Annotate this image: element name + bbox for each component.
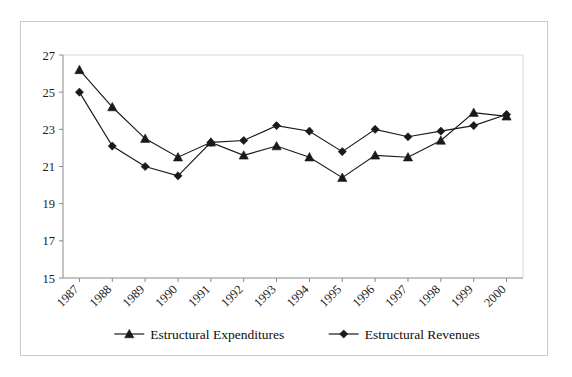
data-point-marker: [272, 141, 281, 149]
data-point-marker: [371, 125, 379, 133]
x-tick-label: 1987: [54, 282, 82, 310]
legend-item-1: Estructural Expenditures: [114, 327, 284, 342]
y-axis-ticks: 15171921232527: [43, 49, 64, 286]
data-point-marker: [108, 142, 116, 150]
x-tick-label: 1994: [284, 282, 312, 310]
y-tick-label: 23: [43, 123, 56, 137]
data-point-marker: [141, 162, 149, 170]
data-point-marker: [305, 153, 314, 161]
y-tick-label: 15: [43, 272, 56, 286]
data-point-marker: [404, 133, 412, 141]
series-line: [79, 70, 506, 178]
legend-item-2: Estructural Revenues: [329, 327, 480, 342]
data-point-marker: [305, 127, 313, 135]
plot-frame: [63, 55, 523, 278]
data-point-marker: [75, 88, 83, 96]
axes: [63, 55, 523, 278]
x-tick-label: 1996: [350, 282, 378, 310]
y-tick-label: 21: [43, 160, 56, 174]
data-point-marker: [470, 122, 478, 130]
x-tick-label: 1991: [185, 282, 213, 310]
y-tick-label: 27: [43, 49, 56, 63]
x-tick-label: 1995: [317, 282, 345, 310]
x-tick-label: 1998: [415, 282, 443, 310]
data-point-marker: [173, 153, 182, 161]
x-tick-label: 1989: [120, 282, 148, 310]
x-axis-ticks: 1987198819891990199119921993199419951996…: [54, 278, 509, 310]
data-point-marker: [272, 122, 280, 130]
legend-label: Estructural Expenditures: [150, 327, 284, 342]
legend-label: Estructural Revenues: [365, 327, 480, 342]
data-point-marker: [371, 151, 380, 159]
y-tick-label: 19: [43, 197, 56, 211]
y-tick-label: 25: [43, 86, 56, 100]
y-tick-label: 17: [43, 234, 56, 248]
data-point-marker: [437, 127, 445, 135]
data-point-marker: [75, 65, 84, 73]
x-tick-label: 1992: [218, 282, 246, 310]
x-tick-label: 1997: [383, 282, 411, 310]
chart-legend: Estructural ExpendituresEstructural Reve…: [114, 327, 479, 342]
x-tick-label: 2000: [481, 282, 509, 310]
line-chart-canvas: 1517192123252719871988198919901991199219…: [21, 22, 547, 355]
x-tick-label: 1993: [251, 282, 279, 310]
data-point-marker: [338, 173, 347, 181]
x-tick-label: 1988: [87, 282, 115, 310]
data-point-marker: [338, 148, 346, 156]
legend-marker-icon: [340, 330, 348, 338]
chart-figure: 1517192123252719871988198919901991199219…: [20, 21, 548, 356]
data-point-marker: [469, 108, 478, 116]
x-tick-label: 1999: [448, 282, 476, 310]
x-tick-label: 1990: [153, 282, 181, 310]
data-point-marker: [240, 136, 248, 144]
